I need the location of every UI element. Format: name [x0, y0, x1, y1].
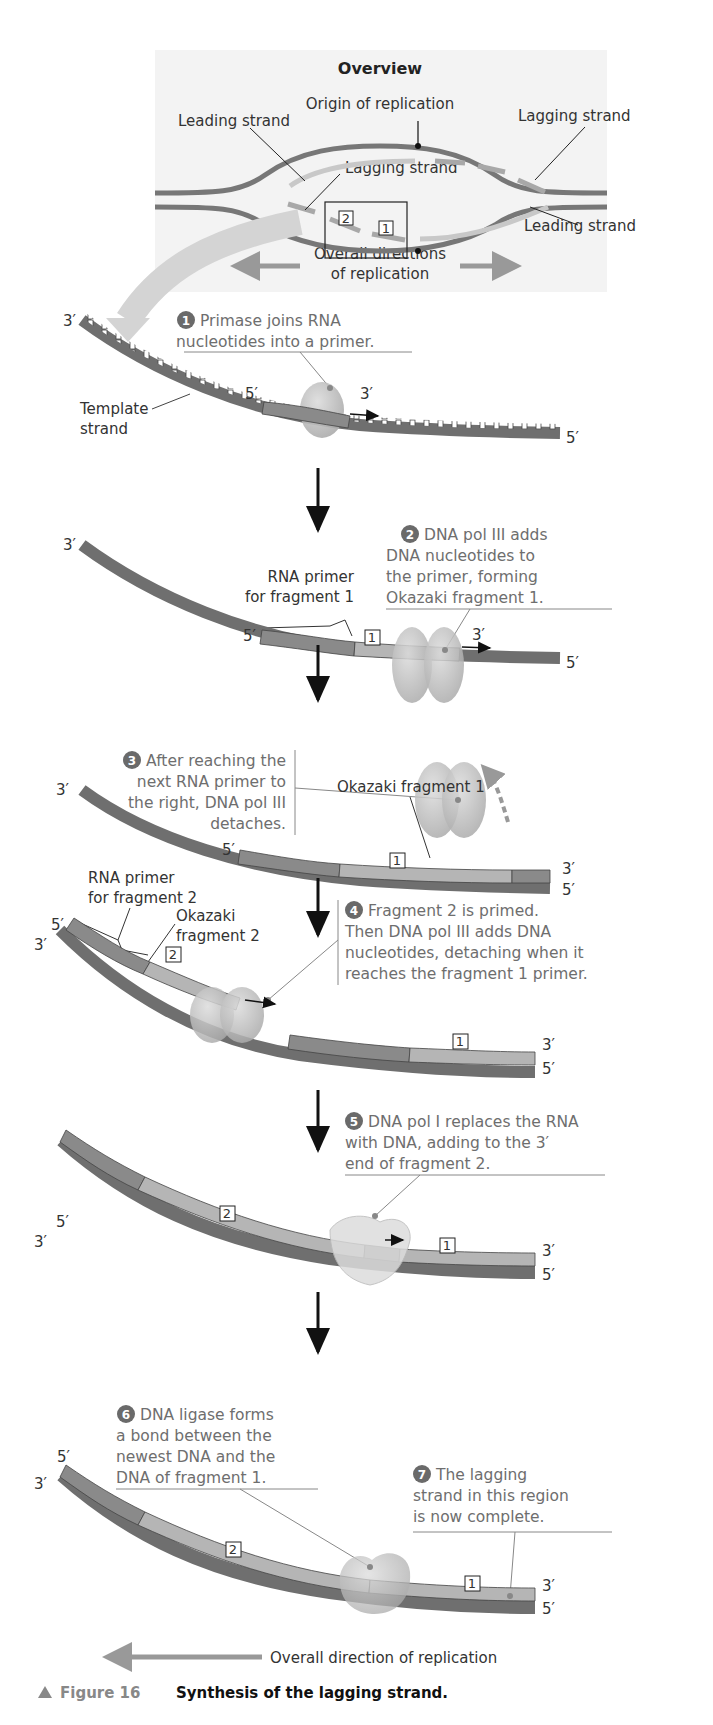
step-4-text-line3: nucleotides, detaching when it — [345, 944, 584, 962]
origin-dot-bottom — [415, 248, 421, 254]
step-3-5prime-primer: 5′ — [222, 841, 236, 859]
okazaki-f2-label-line1: Okazaki — [176, 907, 235, 925]
step-2-text-line4: Okazaki fragment 1. — [386, 589, 544, 607]
step-7-text-line2: strand in this region — [413, 1487, 569, 1505]
step-2-frag1-label: 1 — [368, 630, 376, 645]
step-7-text-line3: is now complete. — [413, 1508, 545, 1526]
step-2-5prime-right: 5′ — [566, 654, 580, 672]
step-5-text-line2: with DNA, adding to the 3′ — [345, 1134, 550, 1152]
step-1-text-line2: nucleotides into a primer. — [176, 333, 374, 351]
step-3-badge: 3 — [128, 754, 136, 768]
figure-number: Figure 16 — [60, 1684, 140, 1702]
step-4-text-line2: Then DNA pol III adds DNA — [344, 923, 552, 941]
step-2-3prime-left: 3′ — [63, 536, 77, 554]
overview-title: Overview — [338, 59, 423, 78]
leading-strand-right-label: Leading strand — [524, 217, 636, 235]
rna-primer-f2-label-line1: RNA primer — [88, 869, 175, 887]
step-6-text-line3: newest DNA and the — [116, 1448, 275, 1466]
final-5prime-left: 5′ — [57, 1448, 71, 1466]
lagging-strand-diagram: Overview Origin of replication Leading s… — [0, 0, 713, 1725]
overview-frag2-label: 2 — [342, 211, 350, 226]
overall-direction-label: Overall direction of replication — [270, 1649, 497, 1667]
step-2-3prime-new: 3′ — [472, 626, 486, 644]
final-3prime-right: 3′ — [542, 1577, 556, 1595]
step-3-text-line2: next RNA primer to — [137, 773, 286, 791]
step-1-3prime-left: 3′ — [63, 312, 77, 330]
rna-primer-f1-label-line1: RNA primer — [267, 568, 354, 586]
step-1: 1 Primase joins RNA nucleotides into a p… — [63, 311, 580, 447]
step-4: 4 Fragment 2 is primed. Then DNA pol III… — [34, 869, 588, 1078]
step-2-text-line2: DNA nucleotides to — [386, 547, 535, 565]
step-4-3prime-left: 3′ — [34, 936, 48, 954]
step-7-text-line1: The lagging — [435, 1466, 527, 1484]
step-3-3prime-left: 3′ — [56, 781, 70, 799]
step-4-text-line4: reaches the fragment 1 primer. — [345, 965, 588, 983]
step-5-frag1-label: 1 — [443, 1238, 451, 1253]
step-5-3prime-left: 3′ — [34, 1233, 48, 1251]
dna-pol-i-enzyme — [330, 1216, 410, 1285]
step-2-text-line1: DNA pol III adds — [424, 526, 548, 544]
step-4-frag2-label: 2 — [169, 947, 177, 962]
step-4-okazaki-f1 — [409, 1048, 535, 1065]
step-1-text-line1: Primase joins RNA — [200, 312, 341, 330]
step-5-5prime-left: 5′ — [56, 1213, 70, 1231]
figure-caption: Figure 16 Synthesis of the lagging stran… — [38, 1684, 448, 1702]
template-label-line1: Template — [79, 400, 148, 418]
step-5-text-line1: DNA pol I replaces the RNA — [368, 1113, 579, 1131]
step-7: 7 The lagging strand in this region is n… — [413, 1465, 612, 1596]
step-6-text-line4: DNA of fragment 1. — [116, 1469, 266, 1487]
okazaki-f2-label-line2: fragment 2 — [176, 927, 260, 945]
directions-label-line2: of replication — [331, 265, 429, 283]
template-label-line2: strand — [80, 420, 128, 438]
figure-title: Synthesis of the lagging strand. — [176, 1684, 448, 1702]
rna-primer-f1-label-line2: for fragment 1 — [245, 588, 354, 606]
step-1-5prime-right: 5′ — [566, 429, 580, 447]
step-4-badge: 4 — [350, 904, 358, 918]
step-2-5prime-primer: 5′ — [243, 627, 257, 645]
step-3-5prime-right: 5′ — [562, 881, 576, 899]
step-5-okazaki-f1 — [399, 1249, 535, 1266]
step-4-5prime-right: 5′ — [542, 1060, 556, 1078]
lagging-strand-right-label: Lagging strand — [518, 107, 631, 125]
overview-frag1-label: 1 — [382, 221, 390, 236]
step-7-badge: 7 — [418, 1468, 426, 1482]
step-1-5prime-primer: 5′ — [245, 385, 259, 403]
step-6-text-line1: DNA ligase forms — [140, 1406, 274, 1424]
detach-arrow — [486, 770, 508, 822]
step-1-3prime-primer: 3′ — [360, 385, 374, 403]
step-4-frag1-label: 1 — [456, 1034, 464, 1049]
step-3-3prime-right: 3′ — [562, 860, 576, 878]
final-5prime-right: 5′ — [542, 1600, 556, 1618]
step-3-text-line4: detaches. — [210, 815, 286, 833]
step-1-badge: 1 — [182, 314, 190, 328]
step-5-5prime-right: 5′ — [542, 1266, 556, 1284]
step-5-text-line3: end of fragment 2. — [345, 1155, 490, 1173]
step-6-badge: 6 — [122, 1408, 130, 1422]
step-2-badge: 2 — [406, 528, 414, 542]
step-4-5prime-left: 5′ — [51, 916, 65, 934]
step-2-text-line3: the primer, forming — [386, 568, 538, 586]
step-3-frag1-label: 1 — [393, 853, 401, 868]
leading-strand-left-label: Leading strand — [178, 112, 290, 130]
rna-primer-f2-label-line2: for fragment 2 — [88, 889, 197, 907]
step-6-text-line2: a bond between the — [116, 1427, 272, 1445]
step-5-frag2-label: 2 — [223, 1206, 231, 1221]
final-frag2-label: 2 — [229, 1542, 237, 1557]
step-4-text-line1: Fragment 2 is primed. — [368, 902, 539, 920]
final-frag1-label: 1 — [468, 1576, 476, 1591]
step-4-3prime-right: 3′ — [542, 1036, 556, 1054]
caption-triangle-icon — [38, 1686, 52, 1698]
origin-label: Origin of replication — [306, 95, 454, 113]
step-3-text-line1: After reaching the — [146, 752, 286, 770]
step-2-rna-primer — [260, 630, 355, 656]
step-2: 2 DNA pol III adds DNA nucleotides to th… — [63, 525, 612, 703]
final-3prime-left: 3′ — [34, 1475, 48, 1493]
step-3-text-line3: the right, DNA pol III — [128, 794, 286, 812]
step-5-badge: 5 — [350, 1115, 358, 1129]
step-5-3prime-right: 3′ — [542, 1242, 556, 1260]
okazaki-fragment-1-label: Okazaki fragment 1 — [337, 778, 485, 796]
